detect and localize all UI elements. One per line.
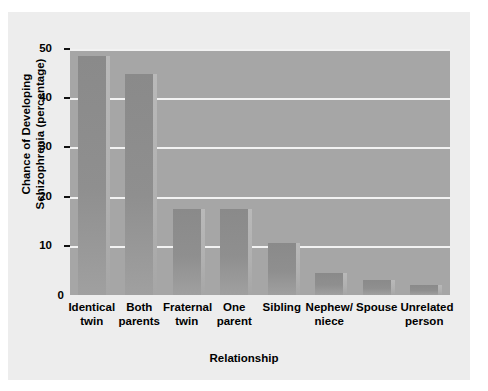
x-tick-label-3: Oneparent	[211, 300, 259, 328]
y-axis-title-line2: Schizophrenia (percentage)	[34, 59, 46, 210]
x-tick-label-line1-2: Fraternal	[163, 301, 212, 313]
chart-page: 0 Chance of Developing Schizophrenia (pe…	[0, 0, 488, 391]
bar-highlight-5	[343, 273, 347, 295]
y-tick-label-40: 40	[6, 92, 52, 103]
y-tick-label-20: 20	[6, 191, 52, 202]
x-tick-label-4: Sibling	[258, 300, 306, 314]
x-tick-label-line2-1: parents	[118, 315, 160, 327]
gridline-50	[70, 49, 450, 51]
bar-2	[173, 209, 201, 295]
bar-3	[220, 209, 248, 295]
y-tick-label-30: 30	[6, 141, 52, 152]
x-tick-label-line1-1: Both	[126, 301, 152, 313]
y-tick-label-50: 50	[6, 43, 52, 54]
bar-5	[315, 273, 343, 295]
bar-0	[78, 56, 106, 295]
x-tick-label-line1-5: Nephew/	[306, 301, 353, 313]
bar-1	[125, 74, 153, 295]
x-tick-label-7: Unrelatedperson	[401, 300, 449, 328]
bar-highlight-4	[296, 243, 300, 295]
bar-highlight-2	[201, 209, 205, 295]
x-tick-label-line1-0: Identical	[68, 301, 115, 313]
x-tick-label-0: Identicaltwin	[68, 300, 116, 328]
y-tick-label-10: 10	[6, 240, 52, 251]
x-tick-label-5: Nephew/niece	[306, 300, 354, 328]
bar-highlight-1	[153, 74, 157, 295]
y-tick-label-0: 0	[50, 289, 64, 301]
x-tick-label-line2-7: person	[405, 315, 443, 327]
x-tick-label-2: Fraternaltwin	[163, 300, 211, 328]
plot-area	[70, 49, 450, 295]
x-tick-label-line1-3: One	[223, 301, 245, 313]
bar-highlight-0	[106, 56, 110, 295]
bar-highlight-6	[391, 280, 395, 295]
x-tick-label-line1-6: Spouse	[356, 301, 398, 313]
x-tick-label-line1-7: Unrelated	[401, 301, 454, 313]
x-tick-label-line2-0: twin	[80, 315, 103, 327]
x-tick-label-line1-4: Sibling	[263, 301, 301, 313]
bar-6	[363, 280, 391, 295]
x-tick-label-line2-5: niece	[315, 315, 344, 327]
x-tick-label-1: Bothparents	[116, 300, 164, 328]
bar-highlight-3	[248, 209, 252, 295]
x-axis-title: Relationship	[0, 352, 488, 364]
bar-7	[410, 285, 438, 295]
x-tick-label-line2-3: parent	[217, 315, 252, 327]
bar-highlight-7	[438, 285, 442, 295]
bar-4	[268, 243, 296, 295]
x-tick-label-line2-2: twin	[175, 315, 198, 327]
x-tick-label-6: Spouse	[353, 300, 401, 314]
